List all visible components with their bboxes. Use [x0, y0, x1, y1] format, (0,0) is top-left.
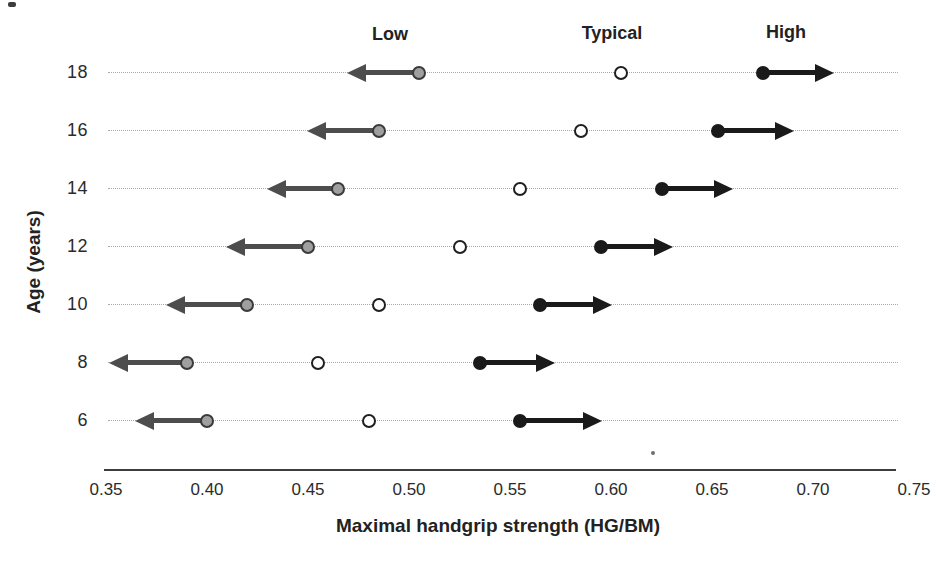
right-arrowhead-icon — [583, 412, 602, 430]
high-arrow-shaft — [601, 244, 657, 249]
scan-artifact-dot — [651, 451, 655, 455]
series-label-typical: Typical — [582, 23, 643, 44]
low-arrow-shaft — [323, 128, 379, 133]
typical-marker — [311, 356, 325, 370]
right-arrowhead-icon — [714, 180, 733, 198]
y-tick-label: 14 — [36, 178, 88, 199]
typical-marker — [372, 298, 386, 312]
y-tick-label: 6 — [36, 410, 88, 431]
left-arrowhead-icon — [267, 180, 286, 198]
low-marker — [301, 240, 315, 254]
high-marker — [594, 240, 608, 254]
low-arrow-shaft — [182, 302, 248, 307]
high-marker — [533, 298, 547, 312]
typical-marker — [614, 66, 628, 80]
x-tick-label: 0.65 — [695, 480, 728, 500]
low-arrow-shaft — [242, 244, 308, 249]
x-tick-label: 0.75 — [897, 480, 930, 500]
x-tick-label: 0.50 — [392, 480, 425, 500]
low-marker — [180, 356, 194, 370]
typical-marker — [513, 182, 527, 196]
left-arrowhead-icon — [166, 296, 185, 314]
y-tick-label: 18 — [36, 62, 88, 83]
low-arrow-shaft — [283, 186, 339, 191]
handgrip-strength-chart: Age (years) Low Typical High 18161412108… — [0, 0, 948, 573]
high-marker — [756, 66, 770, 80]
high-arrow-shaft — [718, 128, 778, 133]
x-tick-label: 0.45 — [291, 480, 324, 500]
y-tick-label: 10 — [36, 294, 88, 315]
right-arrowhead-icon — [654, 238, 673, 256]
low-marker — [331, 182, 345, 196]
x-tick-label: 0.35 — [89, 480, 122, 500]
low-marker — [412, 66, 426, 80]
high-arrow-shaft — [540, 302, 596, 307]
y-tick-label: 12 — [36, 236, 88, 257]
left-arrowhead-icon — [347, 64, 366, 82]
left-arrowhead-icon — [226, 238, 245, 256]
left-arrowhead-icon — [307, 122, 326, 140]
x-tick-label: 0.55 — [493, 480, 526, 500]
right-arrowhead-icon — [593, 296, 612, 314]
low-marker — [372, 124, 386, 138]
series-label-high: High — [766, 22, 806, 43]
x-tick-label: 0.60 — [594, 480, 627, 500]
high-arrow-shaft — [763, 70, 819, 75]
x-tick-label: 0.40 — [190, 480, 223, 500]
series-label-low: Low — [372, 24, 408, 45]
right-arrowhead-icon — [775, 122, 794, 140]
right-arrowhead-icon — [536, 354, 555, 372]
left-arrowhead-icon — [135, 412, 154, 430]
high-marker — [513, 414, 527, 428]
low-marker — [200, 414, 214, 428]
right-arrowhead-icon — [815, 64, 834, 82]
high-arrow-shaft — [662, 186, 718, 191]
x-axis-line — [104, 469, 896, 471]
row-guide-line — [108, 188, 898, 189]
scan-artifact-corner-mark — [8, 2, 16, 7]
row-guide-line — [108, 420, 898, 421]
low-arrow-shaft — [363, 70, 419, 75]
x-axis-title: Maximal handgrip strength (HG/BM) — [336, 515, 660, 537]
high-arrow-shaft — [520, 418, 586, 423]
low-marker — [240, 298, 254, 312]
high-marker — [473, 356, 487, 370]
y-tick-label: 16 — [36, 120, 88, 141]
typical-marker — [574, 124, 588, 138]
low-arrow-shaft — [125, 360, 187, 365]
high-marker — [655, 182, 669, 196]
x-tick-label: 0.70 — [796, 480, 829, 500]
high-marker — [711, 124, 725, 138]
typical-marker — [453, 240, 467, 254]
left-arrowhead-icon — [109, 354, 128, 372]
low-arrow-shaft — [151, 418, 207, 423]
y-tick-label: 8 — [36, 352, 88, 373]
typical-marker — [362, 414, 376, 428]
high-arrow-shaft — [480, 360, 540, 365]
